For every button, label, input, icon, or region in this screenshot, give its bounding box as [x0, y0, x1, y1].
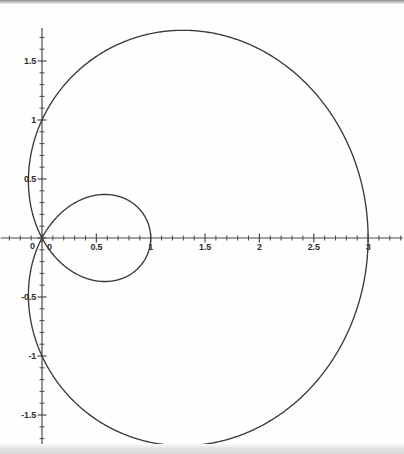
x-tick-label: 3 — [366, 242, 371, 252]
y-tick-label: 1 — [2, 115, 36, 125]
y-tick-label: 0.5 — [2, 174, 36, 184]
x-tick-label: 2 — [257, 242, 262, 252]
y-tick-label: -0.5 — [2, 292, 36, 302]
plot-canvas — [0, 0, 404, 454]
x-tick-label: 0 — [47, 242, 52, 252]
y-tick-label: 1.5 — [2, 56, 36, 66]
x-tick-label: 1 — [148, 242, 153, 252]
x-tick-label: 2.5 — [308, 242, 320, 252]
y-tick-label: -1.5 — [2, 410, 36, 420]
scan-edge-bottom — [0, 444, 404, 454]
y-tick-label: -1 — [2, 351, 36, 361]
polar-plot-figure: 00.511.522.531.510.5-0.5-1-1.50 — [0, 0, 404, 454]
origin-label-y: 0 — [30, 241, 35, 251]
x-tick-label: 1.5 — [199, 242, 211, 252]
x-tick-label: 0.5 — [90, 242, 102, 252]
axis-group — [1, 28, 403, 448]
